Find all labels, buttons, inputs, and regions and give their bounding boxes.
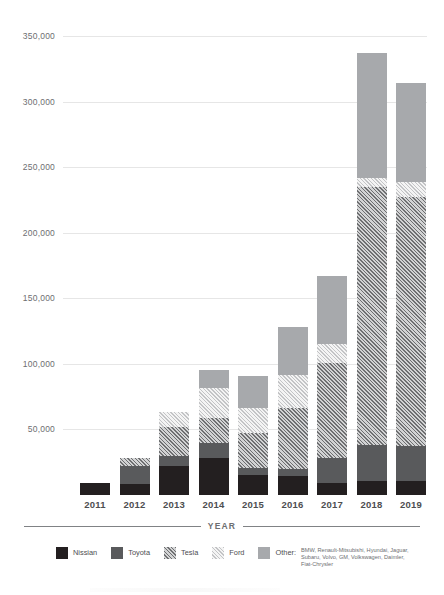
bar-segment-toyota-2017 (317, 458, 347, 483)
bar-segment-tesla-2019 (396, 197, 426, 446)
bar-segment-ford-2014 (199, 388, 229, 418)
bar-segment-nissian-2011 (80, 483, 110, 495)
y-axis-tick-label: 50,000 (3, 424, 55, 434)
bar-segment-other-2017 (317, 276, 347, 344)
bar-segment-ford-2017 (317, 344, 347, 364)
y-axis-tick-label: 200,000 (3, 228, 55, 238)
bar-2019 (396, 83, 426, 495)
bar-segment-nissian-2017 (317, 483, 347, 495)
legend-item-toyota: Toyota (111, 547, 150, 559)
bar-segment-toyota-2018 (357, 445, 387, 481)
bar-segment-toyota-2016 (278, 469, 308, 476)
y-axis-tick-label: 100,000 (3, 359, 55, 369)
bar-segment-toyota-2019 (396, 446, 426, 481)
bar-2011 (80, 483, 110, 495)
y-axis-tick-label: 350,000 (3, 31, 55, 41)
bar-segment-ford-2015 (238, 408, 268, 433)
bar-segment-nissian-2012 (120, 484, 150, 495)
bar-2016 (278, 327, 308, 495)
legend-item-nissian: Nissian (56, 547, 97, 559)
bar-segment-nissian-2019 (396, 481, 426, 495)
y-axis-tick-label: 300,000 (3, 97, 55, 107)
y-axis-tick-label: 150,000 (3, 293, 55, 303)
bar-2012 (120, 458, 150, 495)
nissian-swatch (56, 547, 68, 559)
toyota-swatch (111, 547, 123, 559)
page-footer-artifact (90, 588, 280, 592)
bar-segment-nissian-2014 (199, 458, 229, 495)
bar-segment-other-2019 (396, 83, 426, 182)
chart-legend: NissianToyotaTeslaFordOther:BMW, Renault… (56, 547, 436, 569)
bar-segment-tesla-2014 (199, 418, 229, 443)
bar-segment-tesla-2016 (278, 408, 308, 469)
bar-segment-toyota-2015 (238, 468, 268, 475)
bar-segment-nissian-2013 (159, 466, 189, 495)
legend-other-brand-list: BMW, Renault-Mitsubishi, Hyundai, Jaguar… (301, 547, 413, 569)
ford-swatch (212, 547, 224, 559)
bar-segment-other-2014 (199, 370, 229, 388)
bar-segment-tesla-2015 (238, 433, 268, 468)
bar-segment-toyota-2014 (199, 443, 229, 458)
bar-segment-tesla-2012 (120, 458, 150, 466)
bar-2018 (357, 53, 387, 495)
legend-label-ford: Ford (229, 547, 244, 559)
bar-segment-other-2015 (238, 376, 268, 409)
x-axis-caption-label: YEAR (208, 521, 236, 531)
bar-segment-ford-2018 (357, 178, 387, 187)
bar-segment-other-2018 (357, 53, 387, 178)
legend-item-ford: Ford (212, 547, 244, 559)
plot-area (63, 36, 427, 495)
axis-rule-right (243, 526, 420, 527)
bar-2015 (238, 376, 268, 495)
x-axis-tick-label-2019: 2019 (381, 499, 441, 510)
bar-segment-toyota-2012 (120, 466, 150, 484)
y-axis-tick-label: 250,000 (3, 162, 55, 172)
bar-segment-nissian-2015 (238, 475, 268, 495)
bar-segment-ford-2016 (278, 375, 308, 408)
bar-segment-tesla-2018 (357, 187, 387, 445)
bar-segment-ford-2013 (159, 412, 189, 427)
x-axis-caption: YEAR (24, 519, 420, 533)
legend-label-other: Other: (275, 547, 296, 559)
tesla-swatch (164, 547, 176, 559)
legend-label-toyota: Toyota (128, 547, 150, 559)
stacked-bar-chart: 50,000100,000150,000200,000250,000300,00… (0, 0, 444, 595)
bar-segment-toyota-2013 (159, 456, 189, 466)
bar-2017 (317, 276, 347, 495)
bar-segment-ford-2019 (396, 182, 426, 196)
legend-label-nissian: Nissian (73, 547, 97, 559)
legend-item-other: Other:BMW, Renault-Mitsubishi, Hyundai, … (258, 547, 413, 569)
bar-segment-nissian-2018 (357, 481, 387, 495)
bar-segment-other-2016 (278, 327, 308, 376)
legend-label-tesla: Tesla (181, 547, 198, 559)
bar-segment-tesla-2017 (317, 363, 347, 458)
bar-2013 (159, 412, 189, 495)
bar-segment-nissian-2016 (278, 476, 308, 495)
axis-rule-left (24, 526, 201, 527)
bar-2014 (199, 370, 229, 495)
legend-item-tesla: Tesla (164, 547, 198, 559)
bar-segment-tesla-2013 (159, 427, 189, 456)
gridline (63, 36, 427, 37)
other-swatch (258, 547, 270, 559)
